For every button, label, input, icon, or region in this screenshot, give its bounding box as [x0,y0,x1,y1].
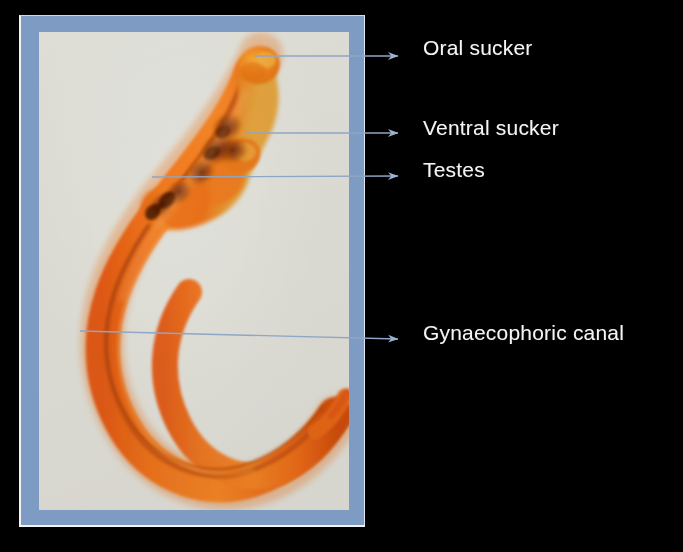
specimen-photograph [39,32,349,510]
slide-canvas: Oral sucker Ventral sucker Testes Gynaec… [0,0,683,552]
photo-frame [19,15,365,527]
label-gynaecophoric-canal: Gynaecophoric canal [423,321,624,345]
specimen-illustration [39,32,349,510]
label-ventral-sucker: Ventral sucker [423,116,559,140]
label-oral-sucker: Oral sucker [423,36,533,60]
label-testes: Testes [423,158,485,182]
